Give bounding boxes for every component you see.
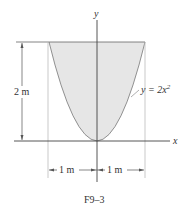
left-dim-arrow-right-icon [91, 169, 96, 172]
figure-caption: F9–3 [84, 194, 105, 205]
right-width-label: 1 m [107, 164, 123, 175]
curve-leader-line [131, 90, 139, 97]
curve-exponent: 2 [167, 83, 171, 91]
x-axis-label: x [172, 135, 178, 146]
curve-equation-label: y = 2x2 [140, 83, 171, 95]
height-dimension-label: 2 m [14, 86, 30, 97]
diagram-canvas: y x 2 m 1 m 1 m y = 2x2 F9–3 [0, 0, 190, 214]
height-arrow-bottom-icon [21, 135, 24, 140]
right-dim-arrow-left-icon [98, 169, 103, 172]
height-arrow-top-icon [21, 43, 24, 48]
right-dim-arrow-right-icon [139, 169, 144, 172]
y-axis-label: y [93, 8, 99, 19]
left-width-label: 1 m [59, 164, 75, 175]
left-dim-arrow-left-icon [49, 169, 54, 172]
